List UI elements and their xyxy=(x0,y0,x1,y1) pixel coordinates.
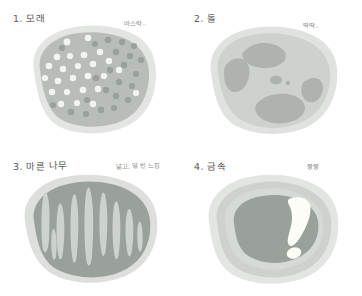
panel-title-stone: 2. 돌 xyxy=(194,11,217,25)
panel-note-metal: 짱짱 xyxy=(307,162,319,171)
panel-sand: 1. 모래 바스락.. xyxy=(0,0,181,148)
sketch-page: 1. 모래 바스락.. 2. 돌 딱딱.. xyxy=(0,0,362,296)
panel-dry-wood: 3. 마른 나무 넓고, 덜 빈 느낌 xyxy=(0,148,181,296)
panel-title-dry-wood: 3. 마른 나무 xyxy=(13,158,68,173)
panel-stone: 2. 돌 딱딱.. xyxy=(181,0,362,148)
panel-note-stone: 딱딱.. xyxy=(303,20,319,30)
panel-metal: 4. 금속 짱짱 xyxy=(181,148,362,296)
panel-note-dry-wood: 넓고, 덜 빈 느낌 xyxy=(116,160,160,171)
panel-note-sand: 바스락.. xyxy=(124,18,146,28)
stone-patch-dot xyxy=(286,81,290,85)
panel-title-sand: 1. 모래 xyxy=(13,10,45,25)
panel-title-metal: 4. 금속 xyxy=(194,158,226,173)
stone-patch-small xyxy=(270,76,282,85)
